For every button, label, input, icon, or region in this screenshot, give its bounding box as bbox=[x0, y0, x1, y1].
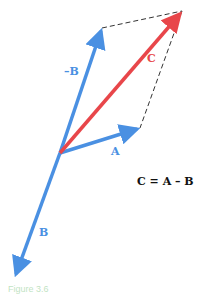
figure-caption: Figure 3.6 bbox=[8, 284, 49, 294]
label-neg-B: –B bbox=[64, 65, 79, 78]
dashed-line-right bbox=[140, 11, 182, 128]
label-A: A bbox=[111, 145, 120, 158]
vector-neg-B-arrow bbox=[60, 31, 101, 153]
label-C: C bbox=[147, 52, 156, 65]
vector-B-arrow bbox=[16, 153, 60, 274]
label-B: B bbox=[39, 226, 48, 239]
vector-C-arrow bbox=[60, 14, 180, 153]
equation: C = A – B bbox=[137, 175, 194, 188]
